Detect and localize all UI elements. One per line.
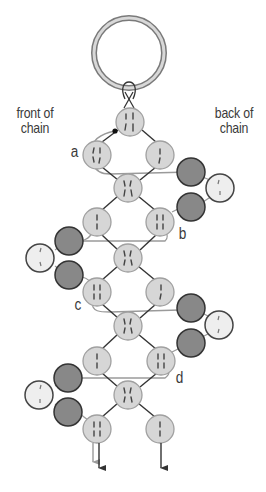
front-label-line1: front of [8,105,62,120]
dark-bead [55,227,83,255]
key-ring [94,18,164,88]
bead-bottom-right [146,415,174,443]
label-a: a [71,144,79,160]
white-bead [206,174,234,202]
white-bead [205,311,233,339]
dark-bead [177,329,205,357]
exit-arrows [93,443,161,468]
bead-top [116,108,144,136]
white-bead [26,244,54,272]
white-bead [25,381,53,409]
bead-c-right [146,278,174,306]
bead-bottom-left [83,415,111,443]
thread-start-dot [112,128,117,133]
back-of-chain-label: back of chain [208,105,260,135]
dark-bead [54,398,82,426]
bead-d-left [83,347,111,375]
bead-center-1 [114,174,142,202]
column-beads [83,108,175,443]
bead-a-left [83,141,111,169]
bead-d-right [147,347,175,375]
front-label-line2: chain [8,120,62,135]
beaded-keychain-diagram [0,0,266,492]
side-cluster-front-1 [26,227,83,289]
back-label-line1: back of [208,105,260,120]
dark-bead [177,158,205,186]
front-of-chain-label: front of chain [8,105,62,135]
dark-bead [55,261,83,289]
label-d: d [176,370,184,386]
bead-a-right [146,141,174,169]
dark-bead [177,294,205,322]
back-label-line2: chain [208,120,260,135]
bead-center-4 [114,381,142,409]
dark-bead [177,193,205,221]
bead-center-2 [114,244,142,272]
bead-center-3 [114,312,142,340]
side-cluster-back-2 [177,294,233,357]
side-cluster-front-2 [25,364,82,426]
label-b: b [179,226,187,242]
label-c: c [75,297,82,313]
dark-bead [54,364,82,392]
side-cluster-back-1 [177,158,234,221]
bead-c-left [83,278,111,306]
bead-b-left [83,208,111,236]
bead-b-right [146,208,174,236]
